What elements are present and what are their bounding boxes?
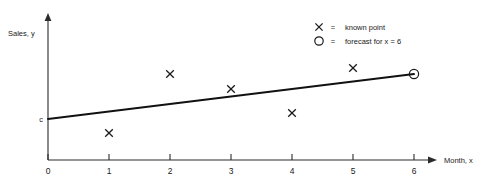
axes-group	[45, 13, 437, 164]
known-points-group	[105, 64, 357, 137]
x-tick-label-6: 6	[412, 166, 417, 176]
x-tick-label-5: 5	[351, 166, 356, 176]
y-axis-title: Sales, y	[8, 29, 35, 38]
y-axis-arrow-icon	[45, 13, 52, 21]
x-axis-arrow-icon	[428, 157, 437, 164]
chart-canvas: 0 1 2 3 4 5 6 Sales, y Month, x c	[0, 0, 487, 193]
legend-equals-2: =	[331, 37, 336, 46]
x-tick-label-0: 0	[46, 166, 51, 176]
x-tick-label-4: 4	[290, 166, 295, 176]
legend-entry-forecast: = forecast for x = 6	[315, 37, 401, 46]
x-axis-ticks	[48, 154, 414, 160]
x-tick-label-2: 2	[168, 166, 173, 176]
data-point-x2	[166, 70, 174, 78]
regression-scatter-chart: 0 1 2 3 4 5 6 Sales, y Month, x c	[0, 0, 487, 193]
regression-trend-line	[48, 74, 414, 119]
legend-entry-known-point: = known point	[315, 23, 386, 32]
x-tick-label-1: 1	[107, 166, 112, 176]
chart-legend: = known point = forecast for x = 6	[315, 23, 401, 46]
legend-equals-1: =	[331, 23, 336, 32]
x-axis-tick-labels: 0 1 2 3 4 5 6	[46, 166, 417, 176]
data-point-x4	[288, 109, 296, 117]
y-intercept-label: c	[39, 115, 43, 124]
legend-label-known-point: known point	[345, 23, 386, 32]
x-axis-title: Month, x	[444, 156, 473, 165]
data-point-x5	[349, 64, 357, 72]
data-point-x3	[227, 85, 235, 93]
circle-marker-icon	[315, 37, 323, 45]
cross-marker-icon	[315, 23, 322, 30]
x-tick-label-3: 3	[229, 166, 234, 176]
data-point-x1	[105, 129, 113, 137]
legend-label-forecast: forecast for x = 6	[345, 37, 401, 46]
